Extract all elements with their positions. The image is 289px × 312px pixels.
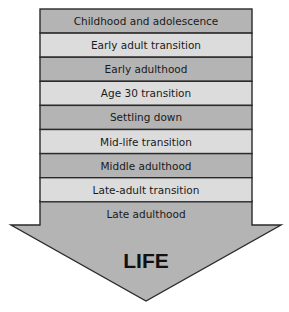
stage-label: Early adult transition	[91, 39, 201, 51]
stage-label: Childhood and adolescence	[74, 15, 219, 27]
stage-label: Middle adulthood	[101, 160, 192, 172]
stage-label: Settling down	[110, 111, 182, 123]
stage-label: Age 30 transition	[101, 87, 191, 99]
stage-label: Early adulthood	[105, 63, 188, 75]
arrow-life-label: LIFE	[123, 249, 169, 272]
stage-label: Late-adult transition	[93, 184, 200, 196]
stage-label: Mid-life transition	[100, 136, 192, 148]
life-stages-arrow-diagram: Childhood and adolescenceEarly adult tra…	[0, 0, 289, 312]
stage-label: Late adulthood	[106, 208, 185, 220]
